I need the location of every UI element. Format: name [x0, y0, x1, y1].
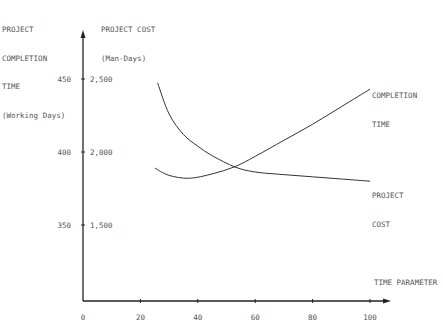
y-axis-arrow-icon — [81, 30, 86, 38]
tick-label: 60 — [251, 313, 261, 322]
completion-time-curve — [155, 89, 370, 178]
tick-label: 80 — [308, 313, 318, 322]
tick-label: 20 — [136, 313, 146, 322]
chart-canvas: 0204060801004502,5004002,0003501,500 — [0, 0, 443, 329]
x-axis-arrow-icon — [383, 299, 391, 304]
tick-label: 0 — [81, 313, 86, 322]
tick-label: 2,500 — [90, 75, 113, 84]
tick-label: 400 — [57, 148, 71, 157]
ticks: 0204060801004502,5004002,0003501,500 — [57, 75, 377, 322]
tick-label: 1,500 — [90, 221, 113, 230]
tick-label: 2,000 — [90, 148, 113, 157]
tick-label: 100 — [363, 313, 377, 322]
tick-label: 350 — [57, 221, 71, 230]
project-cost-curve — [158, 83, 370, 181]
tick-label: 450 — [57, 75, 71, 84]
tick-label: 40 — [193, 313, 203, 322]
